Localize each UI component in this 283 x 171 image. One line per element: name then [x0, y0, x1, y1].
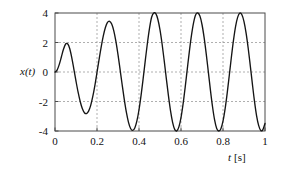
chart-figure: 00.20.40.60.81 -4-2024 x(t) t[s]: [0, 0, 283, 171]
x-tick-label: 0.2: [90, 135, 104, 147]
x-axis-label: t[s]: [228, 151, 246, 163]
x-tick-label: 0: [52, 135, 58, 147]
x-tick-label: 0.8: [216, 135, 230, 147]
x-tick-label: 0.6: [174, 135, 188, 147]
y-tick-label: 4: [43, 7, 49, 19]
y-tick-label: 0: [43, 66, 49, 78]
y-tick-label: -4: [39, 125, 49, 137]
x-tick-label: 1: [262, 135, 268, 147]
x-tick-labels: 00.20.40.60.81: [52, 135, 268, 147]
y-tick-label: 2: [43, 37, 49, 49]
x-tick-label: 0.4: [132, 135, 146, 147]
chart-svg: 00.20.40.60.81 -4-2024 x(t) t[s]: [0, 0, 283, 171]
y-tick-labels: -4-2024: [39, 7, 49, 137]
y-axis-label: x(t): [19, 65, 36, 78]
y-tick-label: -2: [39, 96, 48, 108]
